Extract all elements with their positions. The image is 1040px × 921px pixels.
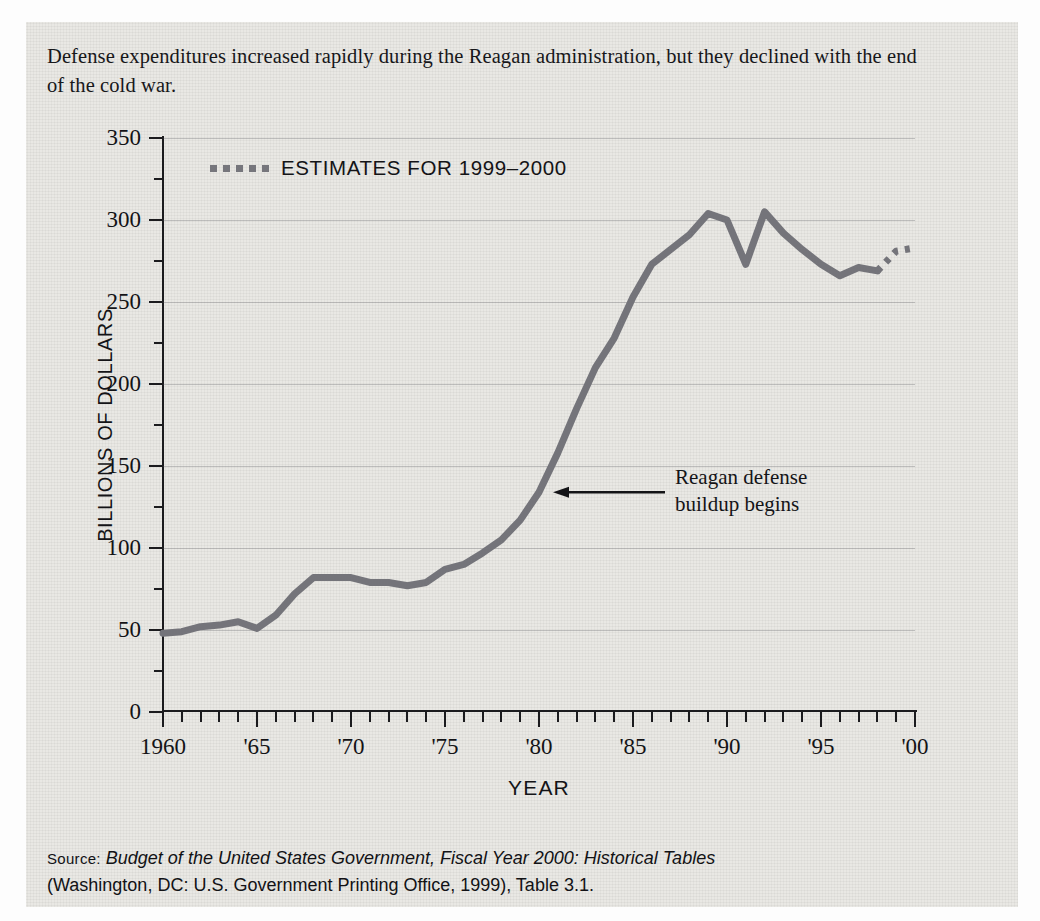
figure-page: Defense expenditures increased rapidly d… — [0, 0, 1040, 921]
x-tick-minor — [782, 712, 784, 722]
x-tick-major — [162, 712, 164, 727]
source-title: Budget of the United States Government, … — [106, 848, 715, 868]
x-tick-minor — [425, 712, 427, 722]
x-tick-minor — [688, 712, 690, 722]
x-tick-minor — [312, 712, 314, 722]
y-tick-label: 0 — [73, 699, 141, 725]
x-tick-minor — [388, 712, 390, 722]
page-margin-top — [0, 0, 1040, 22]
chart-plot-area: 050100150200250300350 1960'65'70'75'80'8… — [163, 138, 915, 712]
x-tick-label: '65 — [243, 734, 270, 760]
y-tick-minor — [154, 506, 163, 508]
y-tick-major — [149, 301, 163, 303]
x-axis-title: YEAR — [508, 776, 570, 800]
y-tick-major — [149, 383, 163, 385]
y-tick-minor — [154, 260, 163, 262]
x-tick-major — [820, 712, 822, 727]
x-tick-minor — [181, 712, 183, 722]
y-tick-major — [149, 465, 163, 467]
x-tick-minor — [895, 712, 897, 722]
x-tick-minor — [801, 712, 803, 722]
x-tick-major — [914, 712, 916, 727]
x-tick-minor — [670, 712, 672, 722]
x-tick-minor — [331, 712, 333, 722]
x-tick-minor — [576, 712, 578, 722]
y-tick-major — [149, 219, 163, 221]
y-tick-major — [149, 137, 163, 139]
x-tick-label: 1960 — [140, 734, 186, 760]
source-rest: (Washington, DC: U.S. Government Printin… — [47, 875, 594, 895]
x-tick-label: '85 — [619, 734, 646, 760]
x-tick-major — [350, 712, 352, 727]
x-tick-label: '95 — [807, 734, 834, 760]
figure-caption: Defense expenditures increased rapidly d… — [47, 42, 937, 100]
y-axis-title: BILLIONS OF DOLLARS — [94, 308, 117, 542]
x-tick-major — [726, 712, 728, 727]
x-tick-label: '70 — [337, 734, 364, 760]
annotation-arrow-layer — [163, 138, 915, 712]
source-note: Source: Budget of the United States Gove… — [47, 845, 947, 899]
y-tick-minor — [154, 670, 163, 672]
x-tick-label: '80 — [525, 734, 552, 760]
chart-annotation: Reagan defense buildup begins — [675, 464, 807, 518]
y-tick-label: 50 — [73, 617, 141, 643]
y-tick-minor — [154, 424, 163, 426]
x-tick-label: '75 — [431, 734, 458, 760]
x-tick-minor — [218, 712, 220, 722]
y-tick-minor — [154, 178, 163, 180]
annotation-line-2: buildup begins — [675, 491, 807, 518]
page-margin-right — [1018, 0, 1040, 921]
y-tick-minor — [154, 342, 163, 344]
x-tick-minor — [764, 712, 766, 722]
x-tick-major — [538, 712, 540, 727]
y-tick-minor — [154, 588, 163, 590]
x-tick-minor — [858, 712, 860, 722]
x-tick-minor — [369, 712, 371, 722]
x-tick-minor — [594, 712, 596, 722]
annotation-line-1: Reagan defense — [675, 464, 807, 491]
x-tick-label: '90 — [713, 734, 740, 760]
x-tick-minor — [406, 712, 408, 722]
x-tick-minor — [519, 712, 521, 722]
x-tick-minor — [557, 712, 559, 722]
x-tick-label: '00 — [901, 734, 928, 760]
x-tick-minor — [707, 712, 709, 722]
x-tick-minor — [275, 712, 277, 722]
x-tick-minor — [839, 712, 841, 722]
x-tick-major — [444, 712, 446, 727]
x-tick-minor — [651, 712, 653, 722]
page-margin-bottom — [0, 907, 1040, 921]
x-tick-major — [632, 712, 634, 727]
x-tick-minor — [500, 712, 502, 722]
x-tick-minor — [745, 712, 747, 722]
x-tick-minor — [482, 712, 484, 722]
y-tick-major — [149, 547, 163, 549]
x-tick-minor — [613, 712, 615, 722]
x-tick-minor — [876, 712, 878, 722]
x-tick-minor — [294, 712, 296, 722]
x-tick-major — [256, 712, 258, 727]
source-prefix: Source: — [47, 850, 101, 867]
y-tick-label: 300 — [73, 207, 141, 233]
x-tick-minor — [237, 712, 239, 722]
x-tick-minor — [463, 712, 465, 722]
y-tick-label: 350 — [73, 125, 141, 151]
left-arrow-icon — [553, 487, 665, 498]
page-margin-left — [0, 0, 26, 921]
y-tick-major — [149, 711, 163, 713]
x-tick-minor — [200, 712, 202, 722]
